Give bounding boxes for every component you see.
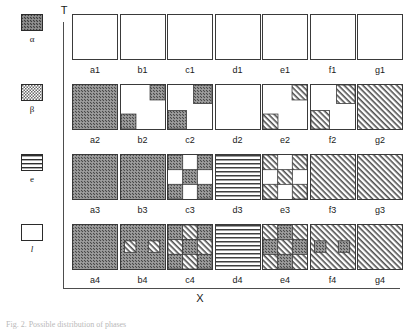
grid-cell: d2 — [215, 84, 261, 146]
grid-cell: a4 — [72, 224, 118, 286]
legend-entry-l: l — [8, 224, 56, 255]
legend-entry-beta: β — [8, 84, 56, 115]
microstructure-box-b4 — [120, 224, 166, 270]
grid-cell-label: d4 — [215, 275, 261, 286]
grid-cell-label: e2 — [262, 135, 308, 146]
grid-cell-label: c2 — [167, 135, 213, 146]
grid-cell: e2 — [262, 84, 308, 146]
grid-cell-label: d3 — [215, 205, 261, 216]
axis-label-composition: X — [190, 292, 210, 304]
microstructure-box-g3 — [357, 154, 403, 200]
microstructure-box-e2 — [262, 84, 308, 130]
microstructure-grid: a1b1c1d1e1f1g1a2b2c2d2e2f2g2a3b3c3d3e3f3… — [72, 14, 402, 288]
microstructure-box-c3 — [167, 154, 213, 200]
legend-label-alpha: α — [8, 34, 56, 45]
grid-cell: f2 — [310, 84, 356, 146]
grid-cell-label: b4 — [120, 275, 166, 286]
grid-cell-label: c3 — [167, 205, 213, 216]
microstructure-box-g2 — [357, 84, 403, 130]
temperature-axis-line — [63, 22, 64, 288]
grid-cell: c4 — [167, 224, 213, 286]
axis-label-temperature: T — [55, 4, 73, 16]
grid-cell-label: g1 — [357, 65, 403, 76]
grid-cell-label: g4 — [357, 275, 403, 286]
phase-legend: αβel — [8, 14, 56, 282]
legend-label-beta: β — [8, 104, 56, 115]
grid-cell: g4 — [357, 224, 403, 286]
grid-cell-label: c4 — [167, 275, 213, 286]
grid-cell: b1 — [120, 14, 166, 76]
grid-cell: g2 — [357, 84, 403, 146]
grid-cell: g3 — [357, 154, 403, 216]
legend-swatch-alpha — [21, 14, 43, 31]
grid-cell: f3 — [310, 154, 356, 216]
grid-cell-label: a2 — [72, 135, 118, 146]
microstructure-box-c4 — [167, 224, 213, 270]
microstructure-box-c2 — [167, 84, 213, 130]
microstructure-box-e3 — [262, 154, 308, 200]
grid-cell-label: f3 — [310, 205, 356, 216]
grid-cell: a3 — [72, 154, 118, 216]
grid-cell: b3 — [120, 154, 166, 216]
figure-caption: Fig. 2. Possible distribution of phases — [6, 320, 406, 329]
grid-cell-label: e4 — [262, 275, 308, 286]
legend-label-l: l — [8, 244, 56, 255]
microstructure-box-e1 — [262, 14, 308, 60]
microstructure-box-f1 — [310, 14, 356, 60]
grid-cell: c1 — [167, 14, 213, 76]
grid-cell-label: a3 — [72, 205, 118, 216]
grid-cell-label: e3 — [262, 205, 308, 216]
legend-swatch-beta — [21, 84, 43, 101]
grid-cell: b4 — [120, 224, 166, 286]
grid-cell-label: b3 — [120, 205, 166, 216]
grid-cell: g1 — [357, 14, 403, 76]
grid-cell: f1 — [310, 14, 356, 76]
microstructure-box-f2 — [310, 84, 356, 130]
grid-cell-label: a1 — [72, 65, 118, 76]
grid-cell-label: a4 — [72, 275, 118, 286]
microstructure-box-d4 — [215, 224, 261, 270]
legend-entry-alpha: α — [8, 14, 56, 45]
grid-cell-label: f1 — [310, 65, 356, 76]
legend-entry-e: e — [8, 154, 56, 185]
microstructure-box-a4 — [72, 224, 118, 270]
microstructure-box-g4 — [357, 224, 403, 270]
grid-cell-label: b1 — [120, 65, 166, 76]
microstructure-box-d2 — [215, 84, 261, 130]
grid-cell-label: b2 — [120, 135, 166, 146]
grid-cell-label: g2 — [357, 135, 403, 146]
grid-cell-label: f2 — [310, 135, 356, 146]
microstructure-box-a3 — [72, 154, 118, 200]
legend-label-e: e — [8, 174, 56, 185]
grid-cell-label: c1 — [167, 65, 213, 76]
grid-cell: e4 — [262, 224, 308, 286]
grid-cell: a2 — [72, 84, 118, 146]
microstructure-box-e4 — [262, 224, 308, 270]
grid-cell: f4 — [310, 224, 356, 286]
grid-cell: d3 — [215, 154, 261, 216]
grid-cell-label: d2 — [215, 135, 261, 146]
grid-cell-label: g3 — [357, 205, 403, 216]
phase-distribution-figure: αβel T X a1b1c1d1e1f1g1a2b2c2d2e2f2g2a3b… — [0, 0, 411, 330]
microstructure-box-c1 — [167, 14, 213, 60]
microstructure-box-g1 — [357, 14, 403, 60]
microstructure-box-b3 — [120, 154, 166, 200]
grid-cell: d4 — [215, 224, 261, 286]
microstructure-box-b1 — [120, 14, 166, 60]
legend-swatch-l — [21, 224, 43, 241]
microstructure-box-a1 — [72, 14, 118, 60]
microstructure-box-b2 — [120, 84, 166, 130]
composition-axis-line — [63, 288, 400, 289]
grid-cell-label: d1 — [215, 65, 261, 76]
microstructure-box-f3 — [310, 154, 356, 200]
legend-swatch-e — [21, 154, 43, 171]
microstructure-box-d3 — [215, 154, 261, 200]
grid-cell: c3 — [167, 154, 213, 216]
grid-cell: b2 — [120, 84, 166, 146]
grid-cell-label: f4 — [310, 275, 356, 286]
grid-cell-label: e1 — [262, 65, 308, 76]
grid-cell: c2 — [167, 84, 213, 146]
grid-cell: d1 — [215, 14, 261, 76]
grid-cell: e1 — [262, 14, 308, 76]
microstructure-box-a2 — [72, 84, 118, 130]
